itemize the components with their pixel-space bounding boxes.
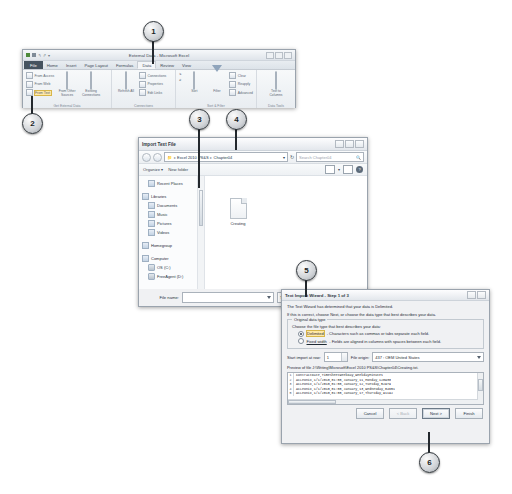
refresh-all-button[interactable]: Refresh All	[115, 72, 137, 94]
sort-ascending-icon[interactable]: ⇅	[179, 72, 182, 76]
window-controls[interactable]	[266, 52, 292, 59]
close-icon[interactable]	[355, 140, 364, 148]
maximize-icon[interactable]	[345, 140, 354, 148]
tab-home[interactable]: Home	[43, 61, 62, 69]
excel-title-bar[interactable]: ↰ ↱ ▾ External Data - Microsoft Excel	[23, 50, 295, 61]
file-name-input[interactable]	[182, 292, 274, 303]
cancel-button[interactable]: Cancel	[356, 408, 384, 419]
properties-button[interactable]: Properties	[139, 81, 166, 88]
breadcrumb-item-1[interactable]: Chapter04	[214, 155, 233, 160]
tab-view[interactable]: View	[178, 61, 195, 69]
file-list-pane[interactable]: Creating	[205, 176, 367, 289]
list-item[interactable]: Creating	[223, 198, 253, 226]
preview-pane-icon[interactable]	[343, 165, 353, 174]
from-text-button[interactable]: From Text	[26, 89, 54, 96]
minimize-icon[interactable]	[335, 140, 344, 148]
edit-links-button[interactable]: Edit Links	[139, 89, 166, 96]
quick-access-toolbar[interactable]: ↰ ↱ ▾	[26, 53, 50, 58]
file-origin-select[interactable]: 437 : OEM United States	[372, 352, 484, 362]
wizard-title-bar[interactable]: Text Import Wizard - Step 1 of 3	[282, 290, 489, 301]
tab-page-layout[interactable]: Page Layout	[80, 61, 112, 69]
from-access-button[interactable]: From Access	[26, 72, 54, 79]
file-origin-label: File origin:	[351, 355, 369, 360]
forward-icon[interactable]	[153, 153, 162, 162]
tab-file[interactable]: File	[24, 61, 43, 69]
file-origin-value: 437 : OEM United States	[375, 355, 419, 360]
customize-qat-icon[interactable]: ▾	[48, 53, 50, 58]
maximize-icon[interactable]	[275, 52, 283, 59]
breadcrumb-dropdown-icon[interactable]: ▾	[283, 155, 285, 160]
existing-connections-button[interactable]: Existing Connections	[80, 72, 102, 97]
undo-icon[interactable]: ↰	[38, 53, 41, 58]
nav-item-computer[interactable]: Computer	[142, 254, 204, 263]
start-row-stepper[interactable]: 1	[324, 352, 348, 362]
group-label-data-tools: Data Tools	[257, 104, 295, 108]
from-other-sources-button[interactable]: From Other Sources	[56, 72, 78, 97]
nav-item-homegroup[interactable]: Homegroup	[142, 241, 204, 250]
nav-pane-scroll-thumb[interactable]	[199, 190, 203, 226]
reapply-button[interactable]: Reapply	[229, 81, 253, 88]
sort-descending-icon[interactable]: ⇵	[179, 78, 182, 82]
preview-hscroll-thumb[interactable]	[288, 400, 336, 404]
filter-button[interactable]: Filter	[207, 72, 228, 94]
redo-icon[interactable]: ↱	[43, 53, 46, 58]
ribbon-tab-strip[interactable]: File Home Insert Page Layout Formulas Da…	[23, 61, 295, 70]
nav-item-documents[interactable]: Documents	[142, 201, 204, 210]
preview-horizontal-scrollbar[interactable]	[288, 399, 478, 404]
next-button[interactable]: Next >	[422, 408, 450, 419]
nav-pane-scrollbar[interactable]	[197, 176, 204, 289]
nav-item-music[interactable]: Music	[142, 210, 204, 219]
nav-item-pictures[interactable]: Pictures	[142, 219, 204, 228]
navigation-pane[interactable]: Recent Places Libraries Documents Music …	[139, 176, 205, 289]
import-dialog-window-controls[interactable]	[335, 140, 364, 148]
az-sort-buttons[interactable]: ⇅ ⇵	[179, 72, 182, 82]
minimize-icon[interactable]	[266, 52, 274, 59]
callout-leader-5	[305, 279, 307, 297]
nav-item-recent-places[interactable]: Recent Places	[142, 179, 204, 188]
text-to-columns-button[interactable]: Text to Columns	[265, 72, 287, 97]
search-input[interactable]: Search Chapter04 🔍	[296, 152, 364, 162]
dialog-toolbar: Organize ▾ New folder ▾ ?	[139, 164, 367, 176]
radio-dot-icon	[298, 331, 304, 337]
preview-scroll-thumb[interactable]	[478, 379, 483, 391]
nav-item-freeagent-d[interactable]: FreeAgent (D:)	[142, 272, 204, 281]
refresh-icon[interactable]: ↻	[290, 155, 294, 160]
close-icon[interactable]	[284, 52, 292, 59]
ribbon-group-data-tools: Text to Columns Data Tools	[257, 70, 295, 108]
disk-icon	[148, 273, 155, 280]
wizard-window-controls[interactable]	[467, 291, 486, 299]
nav-item-videos[interactable]: Videos	[142, 228, 204, 237]
organize-button[interactable]: Organize ▾	[143, 167, 163, 172]
sort-button[interactable]: Sort	[184, 72, 205, 94]
tab-insert[interactable]: Insert	[62, 61, 80, 69]
view-dropdown-icon[interactable]: ▾	[338, 167, 340, 172]
tab-formulas[interactable]: Formulas	[112, 61, 137, 69]
back-icon[interactable]	[142, 153, 151, 162]
new-folder-button[interactable]: New folder	[168, 167, 188, 172]
from-web-button[interactable]: From Web	[26, 81, 54, 88]
connections-button[interactable]: Connections	[139, 72, 166, 79]
import-dialog-title-bar[interactable]: Import Text File	[139, 138, 367, 151]
nav-item-os-c[interactable]: OS (C:)	[142, 263, 204, 272]
save-icon[interactable]	[32, 53, 36, 57]
stepper-buttons-icon[interactable]	[341, 353, 347, 361]
nav-item-libraries[interactable]: Libraries	[142, 192, 204, 201]
callout-leader-4	[235, 128, 237, 150]
radio-delimited[interactable]: Delimited - Characters such as commas or…	[298, 331, 479, 337]
help-icon[interactable]: ?	[356, 166, 363, 173]
library-icon	[142, 193, 149, 200]
clear-button[interactable]: Clear	[229, 72, 253, 79]
radio-fixed-width[interactable]: Fixed width - Fields are aligned in colu…	[298, 338, 479, 344]
close-icon[interactable]	[477, 291, 486, 299]
tab-review[interactable]: Review	[156, 61, 178, 69]
breadcrumb-item-0[interactable]: Excel 2010 PS&S	[177, 155, 209, 160]
from-other-sources-label: From Other Sources	[56, 90, 78, 97]
view-mode-icon[interactable]	[325, 165, 335, 174]
from-web-label: From Web	[35, 82, 51, 86]
breadcrumb[interactable]: 📁 ▸ Excel 2010 PS&S ▸ Chapter04 ▾	[164, 152, 288, 162]
help-icon[interactable]	[467, 291, 476, 299]
file-preview-box[interactable]: 1 ContractDate,TimeSheetWeekDay,WeekdayM…	[287, 372, 484, 405]
import-dialog-title: Import Text File	[142, 142, 176, 147]
finish-button[interactable]: Finish	[455, 408, 483, 419]
advanced-button[interactable]: Advanced	[229, 89, 253, 96]
